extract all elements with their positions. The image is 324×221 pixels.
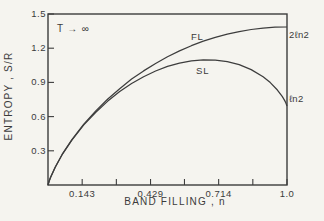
- y-tick-label: 0.9: [28, 76, 46, 87]
- temperature-annotation: T → ∞: [57, 23, 90, 34]
- entropy-band-filling-figure: 1.5 1.2 0.9 0.6 0.3 0.143 0.429 0.714 1.…: [0, 0, 324, 221]
- y-axis-title: ENTROPY , S/R: [3, 41, 15, 151]
- y-tick-label: 1.5: [28, 8, 46, 19]
- y-tick-label: 0.3: [28, 145, 46, 156]
- sl-curve-label: SL: [196, 65, 209, 76]
- y-tick-label: 0.6: [28, 111, 46, 122]
- x-tick-label: 0.143: [62, 188, 102, 199]
- fl-curve-label: FL: [191, 31, 204, 42]
- x-axis-title: BAND FILLING , n: [105, 196, 245, 207]
- y-tick-label: 1.2: [28, 42, 46, 53]
- two-ln2-value-label: 2ℓn2: [289, 29, 309, 40]
- ln2-value-label: ℓn2: [289, 93, 304, 104]
- x-tick-label: 1.0: [267, 188, 307, 199]
